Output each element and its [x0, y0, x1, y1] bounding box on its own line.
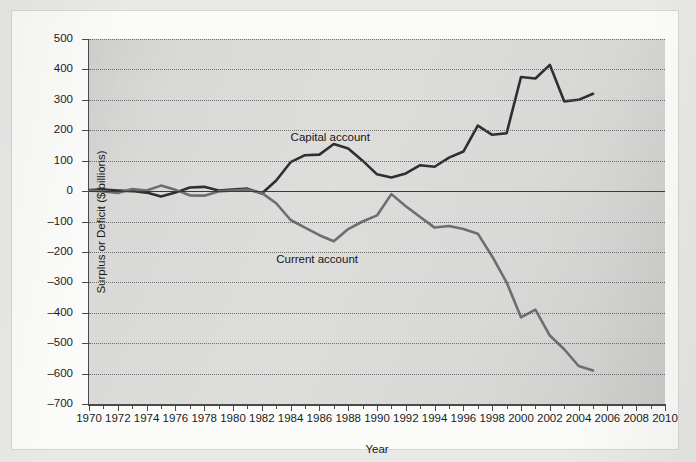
y-axis-tick [82, 130, 89, 131]
gridline-y [89, 252, 665, 253]
gridline-y [89, 100, 665, 101]
y-axis-tick-label: 100 [27, 155, 73, 167]
y-axis-tick [82, 161, 89, 162]
y-axis-tick [82, 100, 89, 101]
plot-area: Surplus or Deficit ($ billions) Year 500… [88, 39, 665, 404]
y-axis-tick [82, 69, 89, 70]
x-axis-tick-label: 2010 [645, 413, 685, 425]
y-axis-tick [82, 282, 89, 283]
y-axis-tick-label: 0 [27, 185, 73, 197]
figure-container: Surplus or Deficit ($ billions) Year 500… [0, 0, 696, 462]
y-axis-tick-label: –200 [27, 246, 73, 258]
x-axis-line [88, 404, 665, 406]
gridline-y [89, 130, 665, 131]
y-axis-tick [82, 222, 89, 223]
y-axis-tick [82, 191, 89, 192]
y-axis-tick [82, 374, 89, 375]
gridline-y [89, 282, 665, 283]
gridline-y [89, 222, 665, 223]
y-axis-tick-label: 300 [27, 94, 73, 106]
x-axis-title: Year [89, 443, 665, 455]
y-axis-tick-label: –600 [27, 368, 73, 380]
y-axis-tick-label: –500 [27, 337, 73, 349]
y-axis-tick-label: –300 [27, 276, 73, 288]
gridline-y [89, 374, 665, 375]
y-axis-tick-label: –100 [27, 216, 73, 228]
y-axis-tick-label: 500 [27, 33, 73, 45]
y-axis-tick-label: –700 [27, 398, 73, 410]
gridline-y [89, 39, 665, 40]
y-axis-tick [82, 343, 89, 344]
gridline-y [89, 343, 665, 344]
zero-line [89, 191, 665, 192]
y-axis-tick-label: 400 [27, 63, 73, 75]
series-label: Current account [276, 253, 358, 265]
x-axis-tick-major [665, 404, 666, 411]
y-axis-tick [82, 252, 89, 253]
series-label: Capital account [291, 131, 370, 143]
gridline-y [89, 69, 665, 70]
y-axis-tick-label: –400 [27, 307, 73, 319]
y-axis-tick-label: 200 [27, 124, 73, 136]
y-axis-tick [82, 39, 89, 40]
y-axis-tick [82, 313, 89, 314]
gridline-y [89, 313, 665, 314]
gridline-y [89, 161, 665, 162]
